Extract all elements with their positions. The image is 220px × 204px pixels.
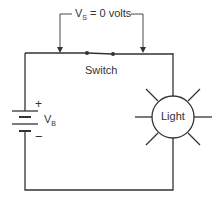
battery-icon bbox=[12, 111, 38, 131]
annotation-value: = 0 volts bbox=[87, 7, 131, 19]
lamp-label: Light bbox=[161, 111, 185, 122]
annotation-sub: S bbox=[82, 14, 87, 21]
circuit-diagram bbox=[0, 0, 220, 204]
battery-negative-label: − bbox=[35, 130, 43, 143]
arrow-right-icon bbox=[140, 47, 146, 53]
voltage-annotation: VS = 0 volts bbox=[75, 8, 131, 19]
switch-contact-left bbox=[85, 51, 89, 55]
battery-positive-label: + bbox=[35, 98, 42, 110]
switch-contact-right bbox=[111, 52, 115, 56]
switch-blade bbox=[87, 53, 113, 54]
arrow-left-icon bbox=[57, 47, 63, 53]
voltage-bracket bbox=[60, 14, 143, 49]
battery-sub: B bbox=[51, 120, 56, 127]
switch-label: Switch bbox=[85, 65, 117, 76]
battery-label: VB bbox=[44, 114, 56, 125]
